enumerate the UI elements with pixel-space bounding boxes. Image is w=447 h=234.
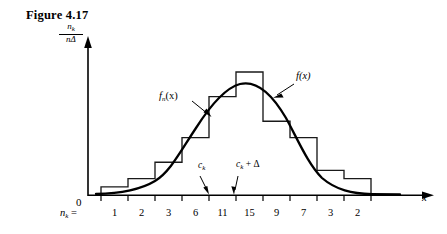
histogram-plot [0, 0, 447, 234]
histogram-label: fn(x) [159, 90, 178, 103]
bin-left-subscript: k [202, 164, 205, 172]
count-label: 7 [290, 207, 317, 218]
count-label: 6 [182, 207, 209, 218]
count-label: 2 [128, 207, 155, 218]
density-label: f(x) [296, 70, 311, 81]
count-label: 2 [344, 207, 371, 218]
count-label: 9 [263, 207, 290, 218]
density-label-arrow [273, 84, 294, 98]
bin-left-label: ck [198, 160, 205, 172]
histogram-outline [101, 72, 371, 195]
density-curve [96, 83, 400, 194]
count-label: 3 [155, 207, 182, 218]
count-label: 15 [236, 207, 263, 218]
count-label: 3 [317, 207, 344, 218]
y-axis [84, 36, 92, 196]
figure-container: Figure 4.17 nk nΔ [0, 0, 447, 234]
bin-right-arrow [231, 176, 238, 195]
count-label: 1 [101, 207, 128, 218]
counts-legend: nk = [60, 207, 77, 220]
counts-row: nk = 123611159732 [0, 207, 447, 227]
count-label: 11 [209, 207, 236, 218]
x-axis-label: x [422, 191, 427, 203]
bin-right-label: ck + Δ [236, 159, 260, 171]
bin-left-arrow [200, 176, 209, 195]
